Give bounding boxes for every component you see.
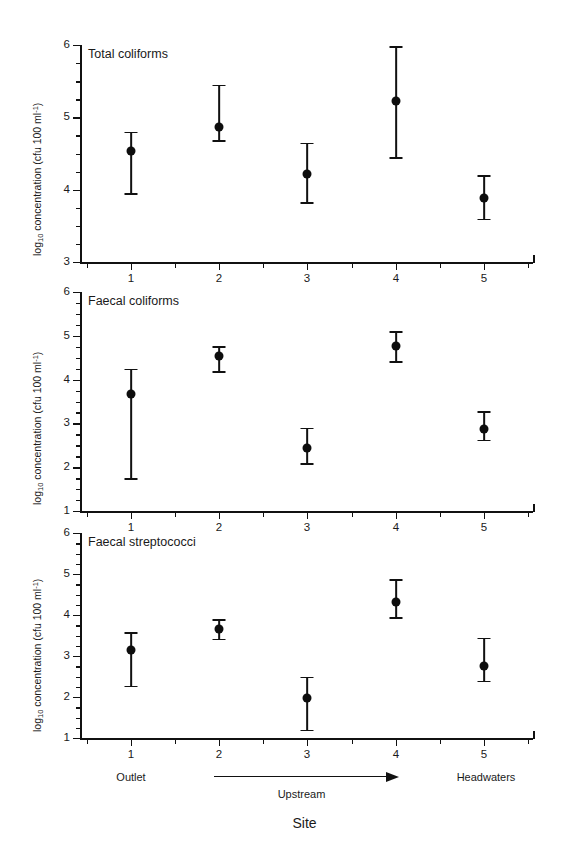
x-major-tick <box>484 739 485 746</box>
y-minor-tick <box>76 584 80 585</box>
y-tick-label: 5 <box>49 568 70 580</box>
panel-title: Faecal streptococci <box>88 536 196 549</box>
data-point-marker <box>392 597 401 606</box>
data-point-marker <box>215 624 224 633</box>
x-minor-tick <box>263 739 264 744</box>
y-major-tick <box>73 533 80 534</box>
error-bar <box>306 677 308 730</box>
panel-3: 12345612345Faecal streptococcilog10 conc… <box>0 0 561 864</box>
y-minor-tick <box>76 666 80 667</box>
upstream-arrow-shaft <box>214 776 386 777</box>
data-point-marker <box>127 645 136 654</box>
y-minor-tick <box>76 677 80 678</box>
y-axis-line <box>80 533 82 739</box>
y-minor-tick <box>76 605 80 606</box>
data-point-marker <box>480 662 489 671</box>
y-axis-title-subscript: 10 <box>36 710 45 718</box>
y-axis-title-superscript: -1 <box>31 582 40 589</box>
y-axis-title: log10 concentration (cfu 100 ml-1) <box>32 579 45 732</box>
y-major-tick <box>73 738 80 739</box>
y-major-tick <box>73 615 80 616</box>
annotation-headwaters: Headwaters <box>457 772 516 783</box>
y-minor-tick <box>76 554 80 555</box>
annotation-upstream: Upstream <box>278 789 326 800</box>
y-major-tick <box>73 656 80 657</box>
x-minor-tick <box>352 739 353 744</box>
error-bar-cap-upper <box>213 619 226 621</box>
error-bar-cap-upper <box>125 632 138 634</box>
x-tick-label: 4 <box>393 749 399 761</box>
x-axis-title: Site <box>292 816 316 830</box>
x-axis-end-cap <box>533 731 535 739</box>
y-major-tick <box>73 574 80 575</box>
error-bar-cap-upper <box>301 677 314 679</box>
x-tick-label: 2 <box>216 749 222 761</box>
upstream-arrow-head <box>386 772 399 782</box>
y-minor-tick <box>76 636 80 637</box>
x-minor-tick <box>440 739 441 744</box>
y-minor-tick <box>76 564 80 565</box>
y-axis-title-middle: concentration (cfu 100 ml <box>31 589 43 710</box>
y-tick-label: 6 <box>49 527 70 539</box>
error-bar-cap-lower <box>301 730 314 732</box>
figure-canvas: 345612345Total coliformslog10 concentrat… <box>0 0 561 864</box>
x-tick-label: 3 <box>304 749 310 761</box>
x-tick-label: 1 <box>128 749 134 761</box>
y-tick-label: 1 <box>49 732 70 744</box>
y-tick-label: 2 <box>49 691 70 703</box>
y-axis-title-suffix: ) <box>31 579 43 583</box>
y-tick-label: 3 <box>49 650 70 662</box>
error-bar-cap-lower <box>478 681 491 683</box>
error-bar-cap-lower <box>390 617 403 619</box>
error-bar <box>483 638 485 681</box>
annotation-outlet: Outlet <box>116 772 145 783</box>
data-point-marker <box>303 694 312 703</box>
error-bar <box>130 632 132 685</box>
y-axis-title-prefix: log <box>31 718 43 732</box>
y-minor-tick <box>76 707 80 708</box>
y-minor-tick <box>76 718 80 719</box>
y-minor-tick <box>76 595 80 596</box>
y-minor-tick <box>76 728 80 729</box>
x-minor-tick <box>528 739 529 744</box>
error-bar-cap-lower <box>125 686 138 688</box>
x-major-tick <box>131 739 132 746</box>
y-minor-tick <box>76 646 80 647</box>
y-minor-tick <box>76 687 80 688</box>
x-major-tick <box>307 739 308 746</box>
y-minor-tick <box>76 543 80 544</box>
x-minor-tick <box>87 739 88 744</box>
x-tick-label: 5 <box>481 749 487 761</box>
error-bar-cap-upper <box>478 638 491 640</box>
error-bar-cap-upper <box>390 579 403 581</box>
x-major-tick <box>396 739 397 746</box>
error-bar-cap-lower <box>213 639 226 641</box>
y-major-tick <box>73 697 80 698</box>
x-minor-tick <box>175 739 176 744</box>
y-minor-tick <box>76 625 80 626</box>
y-tick-label: 4 <box>49 609 70 621</box>
x-major-tick <box>219 739 220 746</box>
